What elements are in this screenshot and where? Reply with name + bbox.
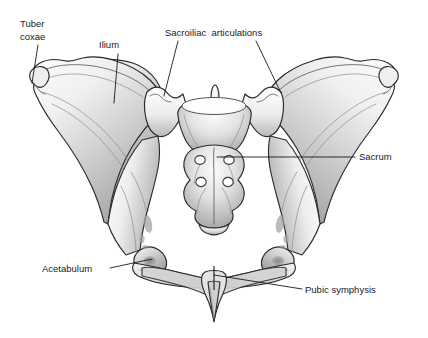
sacral-foramen-upper-left	[195, 156, 205, 165]
label-tuber-coxae-line1: Tuber	[20, 18, 44, 29]
right-ischial-pit-2	[283, 235, 288, 243]
sacral-body-rim-inner	[187, 100, 241, 112]
label-sacroiliac-articulations: Sacroiliac articulations	[165, 27, 262, 38]
right-acetabular-rim-notch	[280, 245, 286, 249]
label-pubic-symphysis: Pubic symphysis	[305, 284, 376, 295]
sacral-foramen-lower-left	[196, 177, 206, 186]
left-ischial-pit-2	[139, 235, 144, 243]
anatomical-figure: Tuber coxae Ilium Sacroiliac articulatio…	[0, 0, 428, 338]
label-sacrum: Sacrum	[359, 151, 392, 162]
label-tuber-coxae-line2: coxae	[20, 31, 45, 42]
label-ilium: Ilium	[99, 39, 119, 50]
left-acetabular-rim-notch	[142, 245, 148, 249]
label-acetabulum: Acetabulum	[42, 263, 92, 274]
pelvis-illustration: Tuber coxae Ilium Sacroiliac articulatio…	[0, 0, 428, 338]
sacral-foramen-lower-right	[223, 177, 233, 186]
